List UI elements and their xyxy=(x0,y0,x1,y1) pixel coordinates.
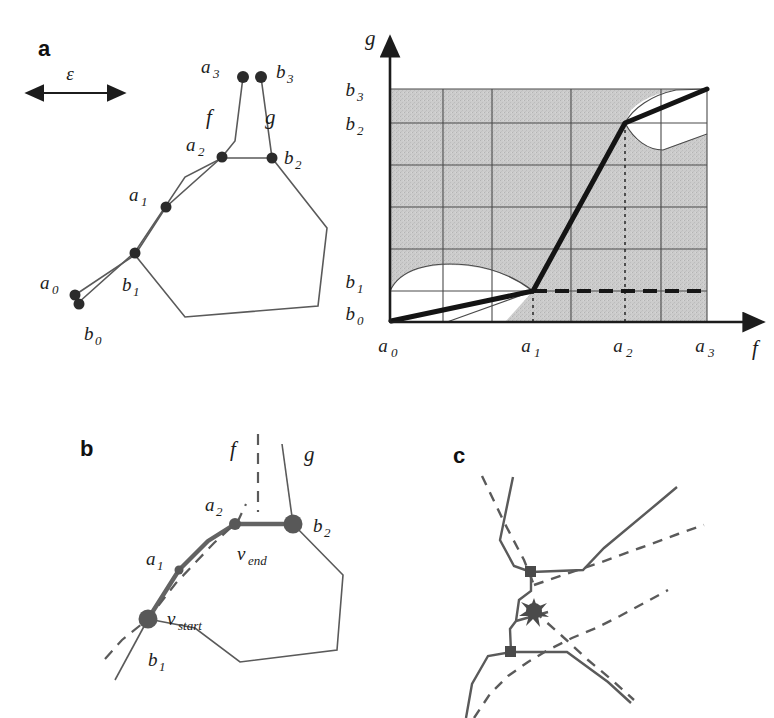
xtick-a0-sub: 0 xyxy=(391,345,398,360)
epsilon-label: ε xyxy=(66,63,74,84)
axis-label-g: g xyxy=(365,26,376,50)
dot-a2 xyxy=(217,152,228,163)
free-space-diagram: g f b 3 b 2 b 1 b 0 a 0 a 1 a 2 a 3 xyxy=(346,26,762,360)
axis-label-f: f xyxy=(752,336,761,360)
ytick-b0-sub: 0 xyxy=(357,313,364,328)
panel-b-label-b2: b xyxy=(313,515,323,536)
dot-v-start xyxy=(139,610,158,629)
infeasible-shaded-region xyxy=(390,89,707,322)
label-b0-sub: 0 xyxy=(95,333,102,348)
panel-c-solid-paths xyxy=(466,477,677,718)
label-b2-sub: 2 xyxy=(295,157,302,172)
figure-root: a ε a 0 b 0 a xyxy=(0,0,774,718)
panel-c-marker-lower-square xyxy=(505,646,516,657)
panel-b-label-b1: b xyxy=(148,649,158,670)
ytick-b1-base: b xyxy=(346,271,356,292)
panel-b-label-vstart-sub: start xyxy=(178,618,202,633)
x-tick-labels: a 0 a 1 a 2 a 3 xyxy=(378,335,715,360)
ytick-b2-sub: 2 xyxy=(357,123,364,138)
panel-b-label-g: g xyxy=(304,442,315,466)
label-a2: a xyxy=(186,134,196,155)
panel-c-solid-upper-right xyxy=(531,487,677,572)
label-a1-sub: 1 xyxy=(141,194,148,209)
panel-a-letter: a xyxy=(38,36,51,61)
panel-b-labels: f g a 1 a 2 b 1 b 2 v start v end xyxy=(146,437,331,674)
dot-b0 xyxy=(74,299,85,310)
ytick-b3-base: b xyxy=(346,79,356,100)
panel-b-label-b2-sub: 2 xyxy=(324,525,331,540)
dot-v-end xyxy=(284,515,303,534)
panel-b-curve-b1-tail xyxy=(115,619,148,680)
label-b3-sub: 3 xyxy=(286,71,294,86)
panel-c-dashed-paths xyxy=(474,476,704,718)
panel-a-vertex-dots xyxy=(70,71,278,310)
label-a0-sub: 0 xyxy=(52,282,59,297)
panel-b-letter: b xyxy=(80,436,93,461)
epsilon-scale-bar: ε xyxy=(42,63,109,93)
panel-c-solid-upper-left xyxy=(500,477,531,572)
panel-b-curve-g-tail xyxy=(282,444,293,524)
panel-b-label-a2-sub: 2 xyxy=(216,504,223,519)
panel-c-letter: c xyxy=(453,443,465,468)
panel-b-curve-f-dashed xyxy=(105,504,246,659)
panel-b-label-vend: v xyxy=(237,543,246,564)
panel-a-polygon xyxy=(135,158,327,317)
figure-canvas: a ε a 0 b 0 a xyxy=(0,0,774,718)
dot-b1 xyxy=(130,248,141,259)
label-b1-sub: 1 xyxy=(133,284,140,299)
xtick-a0-base: a xyxy=(378,335,388,356)
y-tick-labels: b 3 b 2 b 1 b 0 xyxy=(346,79,365,328)
panel-b-label-a1-sub: 1 xyxy=(157,558,164,573)
curve-g-polyline xyxy=(78,77,272,303)
label-a2-sub: 2 xyxy=(198,144,205,159)
label-b2: b xyxy=(284,147,294,168)
xtick-a3-base: a xyxy=(695,335,705,356)
xtick-a2-sub: 2 xyxy=(626,345,633,360)
ytick-b1-sub: 1 xyxy=(357,281,364,296)
ytick-b2-base: b xyxy=(346,113,356,134)
panel-b-label-a2: a xyxy=(205,494,215,515)
curve-f-polyline xyxy=(75,77,243,295)
panel-c-solid-lower-right xyxy=(511,652,631,703)
panel-c-marker-upper-square xyxy=(525,566,536,577)
label-b0: b xyxy=(84,323,94,344)
panel-b-label-vstart: v xyxy=(167,608,176,629)
label-a0: a xyxy=(40,272,50,293)
dot-a3 xyxy=(237,71,249,83)
panel-b-label-f: f xyxy=(230,437,239,461)
panel-b-thick-subpath xyxy=(148,524,293,619)
panel-b: b f g a 1 a 2 b 1 b 2 xyxy=(80,434,343,680)
panel-c: c xyxy=(453,443,704,718)
dot-b2 xyxy=(267,153,278,164)
label-curve-f: f xyxy=(206,105,215,129)
panel-b-polygon xyxy=(148,524,343,662)
label-a3: a xyxy=(201,56,211,77)
ytick-b0-base: b xyxy=(346,303,356,324)
label-a1: a xyxy=(129,184,139,205)
xtick-a1-sub: 1 xyxy=(534,345,541,360)
panel-b-label-vend-sub: end xyxy=(248,553,267,568)
xtick-a1-base: a xyxy=(521,335,531,356)
label-a3-sub: 3 xyxy=(212,66,220,81)
panel-a: a ε a 0 b 0 a xyxy=(38,36,327,348)
panel-b-label-a1: a xyxy=(146,548,156,569)
panel-c-dashed-lower-right xyxy=(534,611,634,700)
dot-b-a2 xyxy=(229,518,241,530)
dot-a1 xyxy=(161,202,172,213)
label-b1: b xyxy=(122,274,132,295)
ytick-b3-sub: 3 xyxy=(356,89,364,104)
dot-b-a1 xyxy=(175,566,184,575)
xtick-a3-sub: 3 xyxy=(707,345,715,360)
panel-c-solid-lower-left xyxy=(466,652,511,718)
label-curve-g: g xyxy=(265,105,276,129)
panel-b-label-b1-sub: 1 xyxy=(159,659,166,674)
xtick-a2-base: a xyxy=(613,335,623,356)
dot-b3 xyxy=(255,71,267,83)
label-b3: b xyxy=(276,61,286,82)
